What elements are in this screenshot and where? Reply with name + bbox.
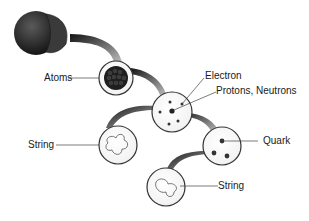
label-electron: Electron — [205, 71, 242, 81]
connector-atom-string — [106, 106, 156, 128]
connector-atoms-atom — [130, 68, 166, 95]
nucleon-circle — [203, 127, 241, 165]
label-atoms: Atoms — [44, 73, 72, 83]
label-quark: Quark — [263, 136, 290, 146]
diagram-canvas — [0, 0, 309, 221]
connector-matter-atoms — [70, 34, 122, 62]
matter-sphere — [14, 11, 67, 55]
string-circle-bottom — [147, 168, 185, 206]
atom-circle — [152, 92, 192, 132]
label-protons-neutrons: Protons, Neutrons — [216, 86, 297, 96]
electron-leader-line — [182, 78, 204, 104]
nucleus-dot — [169, 108, 174, 113]
atoms-circle — [99, 61, 133, 95]
label-string-bottom: String — [218, 181, 244, 191]
string-circle-left — [99, 126, 137, 164]
label-string-left: String — [28, 140, 54, 150]
